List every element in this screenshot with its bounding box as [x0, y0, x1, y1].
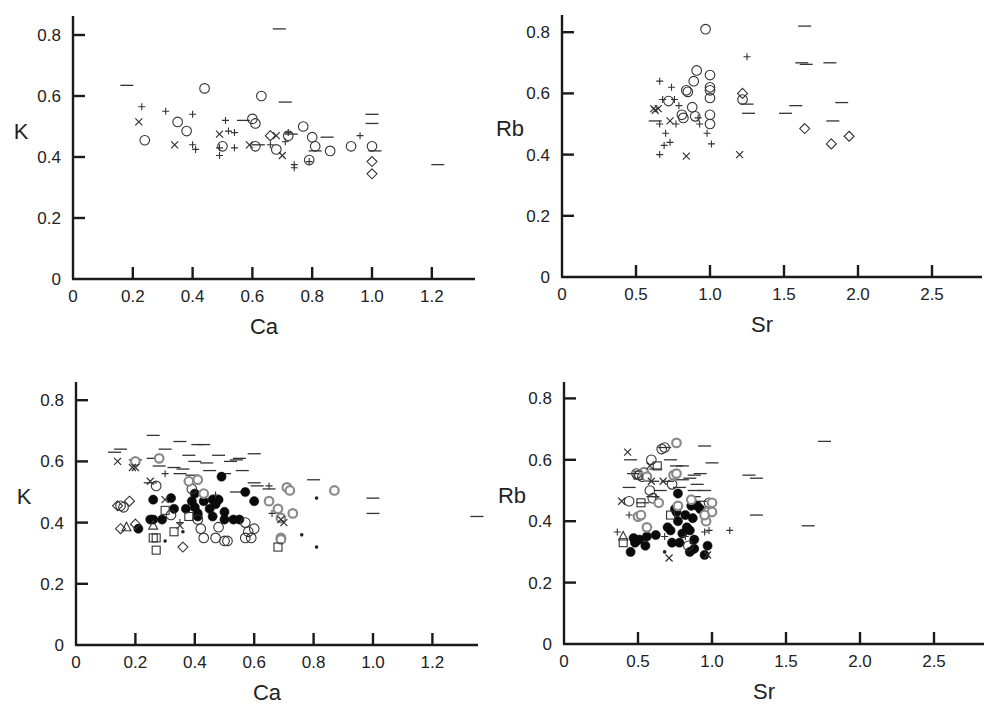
data-point [155, 454, 164, 463]
x-tick-label: 0 [68, 287, 77, 306]
y-tick-label: 0.2 [40, 575, 64, 594]
data-point [200, 84, 210, 94]
data-point [265, 497, 274, 506]
x-axis-title: Ca [250, 314, 279, 339]
data-point [701, 24, 711, 34]
data-point [700, 511, 709, 520]
y-tick-label: 0 [541, 268, 550, 287]
y-tick-label: 0 [52, 270, 61, 289]
x-axis-title: Ca [253, 680, 282, 705]
scatter-figure-grid: 00.20.40.60.81.01.200.20.40.60.8CaK 00.5… [0, 0, 1003, 722]
data-point [147, 478, 154, 485]
data-point [217, 472, 226, 481]
data-point [300, 533, 304, 537]
y-tick-label: 0.6 [528, 451, 552, 470]
data-point [674, 502, 683, 511]
y-tick-label: 0.4 [526, 146, 550, 165]
series-cross [135, 118, 286, 159]
data-point [624, 496, 634, 506]
data-point [705, 110, 715, 120]
y-tick-label: 0.8 [37, 26, 61, 45]
data-point [688, 514, 697, 523]
data-point [116, 524, 126, 534]
data-point [277, 514, 286, 523]
data-point [189, 111, 196, 118]
data-point [826, 139, 836, 149]
data-point [181, 530, 185, 534]
y-tick-label: 0.4 [40, 514, 64, 533]
panel-bottom-left: 00.20.40.60.81.01.200.20.40.60.8CaK [17, 382, 484, 705]
data-point [257, 91, 267, 101]
data-point [152, 546, 160, 554]
y-tick-label: 0.2 [528, 574, 552, 593]
data-point [199, 533, 209, 543]
data-point [672, 439, 681, 448]
data-point [291, 164, 298, 171]
data-point [643, 523, 652, 532]
data-point [124, 496, 134, 506]
data-point [357, 132, 364, 139]
data-point [679, 113, 689, 123]
x-tick-label: 1.2 [420, 287, 444, 306]
data-point [162, 470, 169, 477]
y-axis-title: K [14, 119, 29, 144]
data-point [367, 169, 377, 179]
data-point [689, 76, 699, 86]
x-tick-label: 0.2 [124, 653, 148, 672]
x-tick-label: 0 [71, 653, 80, 672]
data-point [235, 515, 244, 524]
y-tick-label: 0.8 [526, 23, 550, 42]
data-point [800, 124, 810, 134]
y-axis-title: Rb [496, 116, 524, 141]
data-point [706, 527, 713, 534]
x-tick-label: 2.5 [920, 285, 944, 304]
data-point [325, 146, 335, 156]
y-tick-label: 0.2 [37, 209, 61, 228]
data-point [675, 102, 682, 109]
x-tick-label: 0.8 [300, 287, 324, 306]
x-axis-title: Sr [751, 312, 773, 337]
x-tick-label: 1.0 [361, 653, 385, 672]
series-diamond [738, 88, 855, 148]
data-point [666, 555, 673, 562]
data-point [169, 504, 178, 513]
panel-bottom-right: 00.51.01.52.02.500.20.40.60.8SrRb [498, 382, 984, 704]
data-point [667, 117, 674, 124]
x-tick-label: 1.2 [421, 653, 445, 672]
data-point [138, 103, 145, 110]
data-point [315, 545, 319, 549]
x-tick-label: 0.6 [242, 653, 266, 672]
data-point [171, 141, 178, 148]
y-tick-label: 0.6 [526, 84, 550, 103]
data-point [214, 522, 224, 532]
data-point [135, 118, 142, 125]
x-tick-label: 0 [557, 285, 566, 304]
data-point [651, 530, 660, 539]
data-point [703, 541, 712, 550]
data-point [667, 139, 674, 146]
data-point [656, 78, 663, 85]
data-point [705, 70, 715, 80]
data-point [285, 129, 292, 136]
x-tick-label: 0.5 [624, 285, 648, 304]
data-point [277, 535, 286, 544]
data-point [673, 489, 682, 498]
data-point [298, 122, 308, 132]
figure-canvas: 00.20.40.60.81.01.200.20.40.60.8CaK 00.5… [0, 0, 1003, 722]
data-point [182, 126, 192, 136]
x-tick-label: 0.4 [183, 653, 207, 672]
data-point [661, 142, 668, 149]
data-point [222, 117, 229, 124]
data-point [666, 526, 675, 535]
y-tick-label: 0.8 [528, 389, 552, 408]
data-point [844, 131, 854, 141]
data-point [624, 449, 631, 456]
data-point [163, 539, 167, 543]
series-circle [664, 24, 748, 128]
data-point [161, 506, 169, 514]
data-point [162, 108, 169, 115]
data-point [315, 496, 319, 500]
data-point [367, 142, 377, 152]
data-point [149, 495, 158, 504]
x-tick-label: 1.5 [772, 285, 796, 304]
